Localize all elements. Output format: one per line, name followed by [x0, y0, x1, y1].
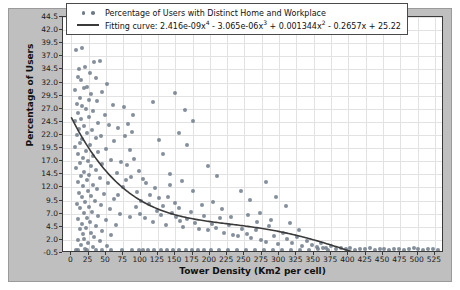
- legend-label-curve: Fitting curve: 2.416e-09x4 - 3.065e-06x3…: [105, 19, 401, 31]
- x-tick-label: 475: [392, 255, 406, 264]
- y-tick-label: 9.5: [46, 195, 58, 204]
- y-tick-label: 19.5: [41, 143, 58, 152]
- x-tick-mark: [226, 252, 227, 255]
- x-tick-mark: [261, 252, 262, 255]
- x-tick-mark: [399, 252, 400, 255]
- y-tick-label: 14.5: [41, 169, 58, 178]
- y-tick-mark: [59, 82, 62, 83]
- x-tick-mark: [105, 252, 106, 255]
- chart-figure: -0.52.04.57.09.512.014.517.019.522.024.5…: [0, 0, 460, 290]
- x-tick-label: 50: [100, 255, 110, 264]
- y-tick-mark: [59, 95, 62, 96]
- y-tick-label: 34.5: [41, 64, 58, 73]
- y-tick-label: 24.5: [41, 116, 58, 125]
- x-tick-label: 275: [254, 255, 268, 264]
- legend-entry-curve: Fitting curve: 2.416e-09x4 - 3.065e-06x3…: [71, 19, 401, 31]
- x-tick-label: 100: [132, 255, 146, 264]
- x-tick-label: 500: [410, 255, 424, 264]
- y-tick-label: 22.0: [41, 130, 58, 139]
- y-tick-mark: [59, 147, 62, 148]
- x-tick-label: 150: [167, 255, 181, 264]
- y-axis-label: Percentage of Users: [25, 15, 35, 175]
- y-tick-mark: [59, 173, 62, 174]
- y-tick-mark: [59, 239, 62, 240]
- x-tick-label: 75: [117, 255, 127, 264]
- fitting-curve: [63, 17, 442, 251]
- y-tick-label: -0.5: [43, 248, 58, 257]
- x-tick-mark: [70, 252, 71, 255]
- x-tick-mark: [88, 252, 89, 255]
- x-tick-label: 425: [358, 255, 372, 264]
- x-tick-mark: [122, 252, 123, 255]
- x-tick-label: 300: [271, 255, 285, 264]
- x-tick-label: 200: [202, 255, 216, 264]
- y-tick-label: 17.0: [41, 156, 58, 165]
- y-tick-mark: [59, 42, 62, 43]
- y-tick-label: 37.0: [41, 51, 58, 60]
- y-tick-mark: [59, 108, 62, 109]
- x-tick-label: 375: [323, 255, 337, 264]
- y-tick-mark: [59, 68, 62, 69]
- plot-area: [62, 16, 443, 252]
- x-tick-mark: [347, 252, 348, 255]
- legend-entry-scatter: Percentage of Users with Distinct Home a…: [71, 7, 401, 19]
- y-tick-mark: [59, 55, 62, 56]
- x-tick-label: 450: [375, 255, 389, 264]
- x-tick-label: 225: [219, 255, 233, 264]
- y-tick-label: 32.0: [41, 77, 58, 86]
- x-tick-label: 325: [288, 255, 302, 264]
- x-tick-mark: [417, 252, 418, 255]
- y-tick-label: 44.5: [41, 12, 58, 21]
- x-tick-mark: [434, 252, 435, 255]
- y-tick-label: 4.5: [46, 221, 58, 230]
- y-tick-mark: [59, 121, 62, 122]
- y-tick-mark: [59, 226, 62, 227]
- y-tick-mark: [59, 16, 62, 17]
- x-tick-mark: [209, 252, 210, 255]
- y-tick-label: 29.5: [41, 90, 58, 99]
- y-tick-label: 12.0: [41, 182, 58, 191]
- x-tick-label: 175: [184, 255, 198, 264]
- scatter-marker-icon: [71, 11, 105, 15]
- y-tick-label: 39.5: [41, 38, 58, 47]
- x-tick-label: 125: [150, 255, 164, 264]
- x-tick-label: 0: [68, 255, 73, 264]
- x-tick-mark: [295, 252, 296, 255]
- legend-label-scatter: Percentage of Users with Distinct Home a…: [105, 9, 326, 18]
- x-tick-label: 525: [427, 255, 441, 264]
- x-tick-mark: [140, 252, 141, 255]
- x-tick-label: 25: [83, 255, 93, 264]
- y-tick-label: 2.0: [46, 234, 58, 243]
- x-axis-label: Tower Density (Km2 per cell): [62, 266, 443, 276]
- y-tick-mark: [59, 134, 62, 135]
- y-tick-label: 7.0: [46, 208, 58, 217]
- y-tick-mark: [59, 186, 62, 187]
- y-tick-label: 42.0: [41, 25, 58, 34]
- x-tick-mark: [157, 252, 158, 255]
- line-marker-icon: [71, 24, 105, 26]
- y-tick-mark: [59, 213, 62, 214]
- y-tick-mark: [59, 200, 62, 201]
- x-tick-mark: [278, 252, 279, 255]
- x-tick-mark: [365, 252, 366, 255]
- x-tick-label: 400: [340, 255, 354, 264]
- x-tick-mark: [243, 252, 244, 255]
- y-tick-label: 27.0: [41, 103, 58, 112]
- x-tick-mark: [192, 252, 193, 255]
- x-tick-label: 350: [306, 255, 320, 264]
- x-tick-mark: [382, 252, 383, 255]
- x-tick-label: 250: [236, 255, 250, 264]
- x-tick-mark: [330, 252, 331, 255]
- y-tick-mark: [59, 160, 62, 161]
- x-tick-mark: [313, 252, 314, 255]
- y-tick-mark: [59, 252, 62, 253]
- chart-legend: Percentage of Users with Distinct Home a…: [66, 3, 408, 35]
- y-tick-mark: [59, 29, 62, 30]
- x-tick-mark: [174, 252, 175, 255]
